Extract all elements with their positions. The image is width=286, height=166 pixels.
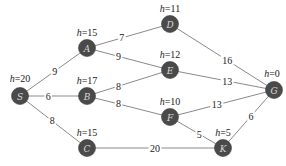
node-label: F: [166, 113, 174, 123]
node-label: E: [166, 66, 174, 76]
edge-weight-label: 9: [52, 66, 57, 77]
node-label: K: [219, 144, 228, 154]
edge-weight-label: 8: [116, 98, 121, 109]
node-label: S: [17, 92, 23, 102]
edge-weight-label: 8: [50, 115, 55, 126]
node-a: Ah=15: [77, 27, 98, 57]
edge-a-e: [87, 48, 170, 70]
edge-weight-label: 13: [222, 76, 232, 87]
node-f: Fh=10: [160, 96, 181, 126]
node-c: Ch=15: [77, 127, 98, 157]
heuristic-label: h=11: [160, 3, 180, 14]
edges-layer: [20, 24, 274, 148]
node-label: G: [270, 86, 277, 96]
node-label: C: [84, 144, 91, 154]
node-label: A: [83, 44, 91, 54]
edge-weight-label: 5: [197, 129, 202, 140]
search-graph-diagram: 96879881613135206 Sh=20Ah=15Bh=17Ch=15Dh…: [0, 0, 286, 166]
node-g: Gh=0: [264, 68, 282, 99]
edge-weight-label: 8: [116, 81, 121, 92]
heuristic-label: h=5: [215, 127, 231, 138]
heuristic-label: h=0: [264, 68, 280, 79]
edge-a-d: [87, 24, 170, 48]
edge-weight-label: 13: [212, 99, 222, 110]
node-b: Bh=17: [77, 75, 98, 105]
heuristic-label: h=17: [77, 75, 98, 86]
nodes-layer: Sh=20Ah=15Bh=17Ch=15Dh=11Eh=12Fh=10Kh=5G…: [10, 3, 283, 157]
node-e: Eh=12: [160, 49, 181, 79]
edge-b-e: [87, 70, 170, 96]
edge-weight-label: 6: [46, 91, 51, 102]
edge-b-f: [87, 96, 170, 117]
heuristic-label: h=15: [77, 27, 98, 38]
node-label: B: [83, 92, 91, 102]
heuristic-label: h=12: [160, 49, 181, 60]
node-d: Dh=11: [160, 3, 180, 33]
heuristic-label: h=20: [10, 73, 31, 84]
edge-weight-label: 9: [116, 51, 121, 62]
node-s: Sh=20: [10, 73, 31, 105]
edge-weight-label: 6: [249, 111, 254, 122]
edge-weight-label: 20: [150, 143, 160, 154]
node-label: D: [165, 20, 173, 30]
edge-weight-label: 16: [222, 55, 232, 66]
heuristic-label: h=15: [77, 127, 98, 138]
edge-weight-label: 7: [119, 32, 124, 43]
heuristic-label: h=10: [160, 96, 181, 107]
